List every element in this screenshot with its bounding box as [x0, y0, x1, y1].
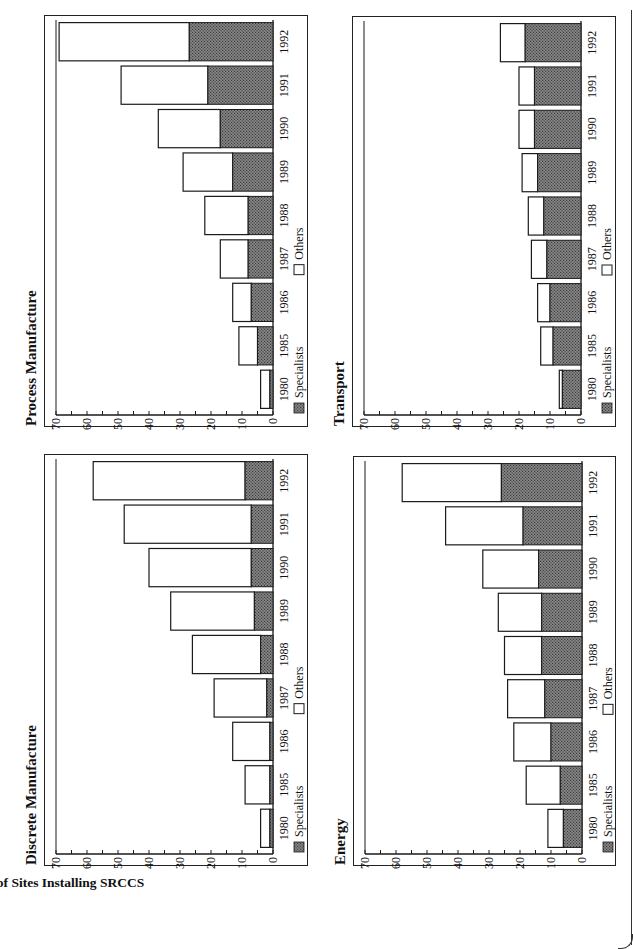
- legend-swatch-specialists: [602, 403, 612, 413]
- bar-segment-others: [531, 240, 547, 278]
- bar-1990: [158, 109, 273, 147]
- bar-1987: [214, 679, 273, 717]
- bar-segment-specialists: [539, 550, 582, 588]
- category-label: 1992: [586, 471, 600, 495]
- category-label: 1989: [586, 600, 600, 624]
- bar-segment-others: [158, 109, 220, 147]
- bar-segment-others: [192, 635, 260, 673]
- bar-1980: [261, 370, 273, 408]
- value-tick-label: 40: [450, 418, 464, 430]
- value-tick-label: 10: [235, 857, 249, 869]
- category-label: 1980: [586, 816, 600, 840]
- bar-segment-others: [541, 327, 553, 365]
- value-tick-label: 40: [142, 857, 156, 869]
- bar-1989: [522, 154, 581, 192]
- category-label: 1991: [277, 73, 291, 97]
- bar-1989: [171, 592, 273, 630]
- bar-1991: [121, 66, 273, 104]
- category-label: 1991: [277, 512, 291, 536]
- value-tick-label: 70: [357, 418, 371, 430]
- bar-segment-specialists: [220, 109, 273, 147]
- chart-title: Process Manufacture: [23, 290, 40, 426]
- bar-segment-specialists: [254, 592, 273, 630]
- bar-1991: [124, 505, 273, 543]
- bar-segment-others: [261, 809, 270, 847]
- value-tick-label: 60: [388, 418, 402, 430]
- bar-1986: [538, 284, 581, 322]
- bar-segment-others: [500, 24, 525, 62]
- bar-1986: [514, 723, 582, 761]
- bar-segment-specialists: [233, 153, 273, 191]
- value-tick-label: 70: [358, 857, 372, 869]
- bar-segment-specialists: [251, 548, 273, 586]
- category-label: 1990: [585, 117, 599, 141]
- bar-1985: [541, 327, 581, 365]
- category-label: 1992: [585, 31, 599, 55]
- bar-segment-others: [233, 283, 252, 321]
- bar-segment-specialists: [545, 680, 582, 718]
- bar-segment-others: [446, 507, 523, 545]
- bar-1989: [183, 153, 273, 191]
- bar-segment-specialists: [535, 110, 582, 148]
- bar-segment-others: [233, 722, 270, 760]
- bar-segment-others: [205, 196, 248, 234]
- bar-chart-plot: 0102030405060701980198519861987198819891…: [45, 453, 309, 865]
- value-tick-label: 0: [266, 857, 280, 863]
- bar-segment-others: [214, 679, 267, 717]
- legend-swatch-others: [602, 265, 612, 275]
- bar-segment-specialists: [542, 593, 582, 631]
- bar-segment-others: [526, 766, 560, 804]
- bar-1988: [505, 636, 583, 674]
- bar-1992: [402, 464, 582, 502]
- legend-label-specialists: Specialists: [601, 785, 615, 837]
- bar-1987: [508, 680, 582, 718]
- value-tick-label: 60: [389, 857, 403, 869]
- category-label: 1986: [586, 730, 600, 754]
- category-label: 1985: [586, 773, 600, 797]
- legend-label-others: Others: [601, 667, 615, 699]
- bar-1990: [519, 110, 581, 148]
- value-tick-label: 40: [142, 418, 156, 430]
- value-tick-label: 0: [266, 418, 280, 424]
- category-label: 1989: [277, 599, 291, 623]
- legend-label-specialists: Specialists: [600, 346, 614, 398]
- bar-1985: [245, 766, 273, 804]
- bar-1986: [233, 283, 273, 321]
- category-label: 1988: [277, 643, 291, 667]
- bar-segment-specialists: [523, 507, 582, 545]
- bar-segment-specialists: [189, 23, 273, 61]
- bar-segment-others: [505, 636, 542, 674]
- bar-segment-specialists: [208, 66, 273, 104]
- legend: SpecialistsOthers: [600, 228, 614, 413]
- bar-segment-others: [519, 110, 535, 148]
- bar-segment-others: [239, 327, 258, 365]
- chart-title: Discrete Manufacture: [23, 725, 40, 865]
- category-label: 1987: [585, 247, 599, 271]
- legend-swatch-others: [294, 265, 304, 275]
- bar-segment-others: [149, 548, 251, 586]
- bar-1980: [548, 809, 582, 847]
- value-tick-label: 30: [173, 857, 187, 869]
- bar-segment-others: [124, 505, 251, 543]
- bar-1991: [519, 67, 581, 105]
- plot-area: 0102030405060701980198519861987198819891…: [49, 459, 291, 869]
- value-tick-label: 50: [419, 418, 433, 430]
- bar-segment-specialists: [248, 196, 273, 234]
- bar-segment-specialists: [251, 505, 273, 543]
- category-label: 1987: [277, 686, 291, 710]
- value-tick-label: 50: [111, 857, 125, 869]
- chart-transport: Transport 010203040506070198019851986198…: [352, 16, 616, 427]
- category-label: 1989: [277, 160, 291, 184]
- bar-segment-specialists: [525, 24, 581, 62]
- value-tick-label: 0: [575, 857, 589, 863]
- bar-segment-others: [548, 809, 564, 847]
- legend-swatch-specialists: [603, 842, 613, 852]
- bar-segment-specialists: [551, 723, 582, 761]
- bar-segment-specialists: [248, 240, 273, 278]
- bar-1992: [59, 23, 273, 61]
- bar-segment-specialists: [563, 809, 582, 847]
- bar-segment-others: [508, 680, 545, 718]
- legend-swatch-specialists: [294, 403, 304, 413]
- bar-chart-plot: 0102030405060701980198519861987198819891…: [354, 455, 617, 865]
- category-label: 1991: [585, 74, 599, 98]
